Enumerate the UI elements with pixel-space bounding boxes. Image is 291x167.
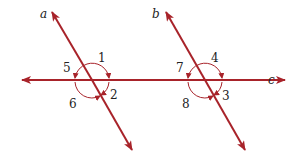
angle-label-4: 4 [211, 51, 219, 65]
angle-label-8: 8 [182, 97, 190, 111]
line-b [166, 12, 205, 80]
label-a: a [40, 7, 47, 21]
label-b: b [152, 7, 160, 21]
angle-label-6: 6 [69, 97, 77, 111]
angle-label-3: 3 [222, 89, 230, 103]
angle-label-7: 7 [176, 61, 184, 75]
angle-label-1: 1 [98, 51, 106, 65]
angle-label-2: 2 [110, 88, 118, 102]
diagram: a b c 1 2 6 5 4 3 8 7 [0, 0, 291, 167]
label-c: c [268, 73, 275, 87]
angle-label-5: 5 [63, 61, 71, 75]
line-a [52, 12, 92, 80]
transversal-diagram: a b c 1 2 6 5 4 3 8 7 [0, 0, 291, 167]
